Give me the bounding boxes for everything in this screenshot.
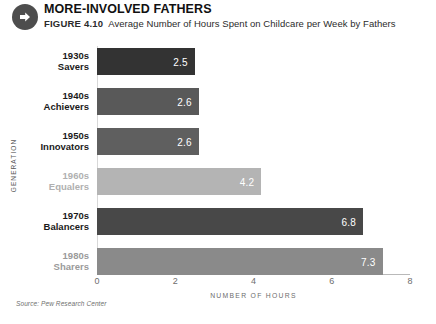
- x-axis-tick: 4: [251, 276, 256, 286]
- x-axis-tick: 8: [407, 276, 412, 286]
- figure-title: Average Number of Hours Spent on Childca…: [108, 18, 395, 29]
- category-decade: 1960s: [3, 170, 89, 181]
- figure-number: FIGURE 4.10: [44, 18, 103, 29]
- category-name: Savers: [3, 61, 89, 72]
- x-axis-tick: 6: [329, 276, 334, 286]
- bar: 4.2: [97, 168, 261, 195]
- bar-value-label: 4.2: [240, 176, 255, 187]
- arrow-right-circle-icon: [12, 4, 38, 30]
- x-axis-title: NUMBER OF HOURS: [97, 292, 410, 299]
- figure-header: MORE-INVOLVED FATHERS FIGURE 4.10Average…: [0, 0, 436, 40]
- category-decade: 1940s: [3, 90, 89, 101]
- bar: 2.6: [97, 88, 199, 115]
- category-label: 1940sAchievers: [3, 90, 89, 112]
- category-label: 1980sSharers: [3, 250, 89, 272]
- category-decade: 1980s: [3, 250, 89, 261]
- category-label: 1970sBalancers: [3, 210, 89, 232]
- category-name: Innovators: [3, 141, 89, 152]
- bar: 7.3: [97, 248, 383, 275]
- bar-value-label: 7.3: [361, 256, 376, 267]
- plot-area: 2.52.62.64.26.87.3: [97, 46, 410, 274]
- figure-caption-line: FIGURE 4.10Average Number of Hours Spent…: [44, 18, 396, 29]
- y-axis-line: [97, 46, 98, 274]
- category-label: 1960sEqualers: [3, 170, 89, 192]
- bar-value-label: 2.6: [177, 136, 192, 147]
- x-axis-tick: 2: [173, 276, 178, 286]
- page-title: MORE-INVOLVED FATHERS: [44, 2, 212, 16]
- bar-value-label: 6.8: [342, 216, 357, 227]
- bar-value-label: 2.6: [177, 96, 192, 107]
- bar: 6.8: [97, 208, 363, 235]
- category-label: 1950sInnovators: [3, 130, 89, 152]
- bar-chart: GENERATION 2.52.62.64.26.87.3 NUMBER OF …: [0, 44, 436, 294]
- category-decade: 1930s: [3, 50, 89, 61]
- category-name: Balancers: [3, 221, 89, 232]
- category-name: Sharers: [3, 261, 89, 272]
- category-label: 1930sSavers: [3, 50, 89, 72]
- category-name: Equalers: [3, 181, 89, 192]
- category-name: Achievers: [3, 101, 89, 112]
- bar: 2.5: [97, 48, 195, 75]
- bar: 2.6: [97, 128, 199, 155]
- bar-value-label: 2.5: [173, 56, 188, 67]
- category-decade: 1970s: [3, 210, 89, 221]
- x-axis-tick: 0: [94, 276, 99, 286]
- source-note: Source: Pew Research Center: [16, 300, 107, 307]
- category-decade: 1950s: [3, 130, 89, 141]
